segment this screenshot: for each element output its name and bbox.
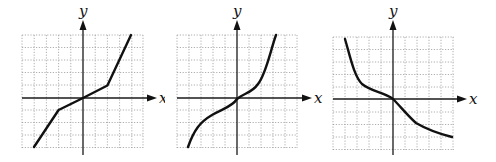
- graph-1-plot: x y: [0, 0, 165, 162]
- graph-2: x y: [160, 0, 325, 162]
- x-axis-label: x: [469, 90, 478, 108]
- graph-1: x y: [0, 0, 165, 162]
- graph-3: x y: [326, 0, 491, 162]
- y-axis-label: y: [388, 2, 398, 20]
- y-axis-arrow-icon: [234, 20, 241, 30]
- graph-3-plot: x y: [326, 0, 496, 162]
- y-axis-label: y: [232, 2, 242, 20]
- y-axis-label: y: [78, 2, 88, 20]
- x-axis-arrow-icon: [147, 95, 157, 102]
- graph-2-plot: x y: [160, 0, 325, 162]
- graph-3-curve: [345, 39, 452, 137]
- x-axis-arrow-icon: [457, 96, 467, 103]
- x-axis-arrow-icon: [302, 95, 312, 102]
- y-axis-arrow-icon: [390, 20, 397, 30]
- x-axis-label: x: [314, 89, 323, 107]
- y-axis-arrow-icon: [80, 20, 87, 30]
